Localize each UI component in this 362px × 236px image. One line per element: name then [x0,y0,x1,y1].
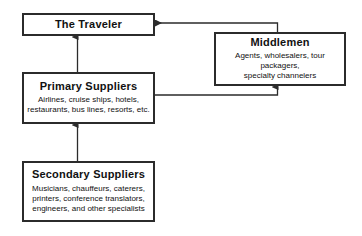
diagram-canvas: The Traveler Middlemen Agents, wholesale… [0,0,362,236]
node-secondary-suppliers[interactable]: Secondary Suppliers Musicians, chauffeur… [22,161,155,222]
node-middlemen[interactable]: Middlemen Agents, wholesalers, tour pack… [214,32,346,86]
node-secondary-suppliers-description: Musicians, chauffeurs, caterers, printer… [32,184,145,214]
node-middlemen-title: Middlemen [250,36,309,49]
node-primary-suppliers-description: Airlines, cruise ships, hotels, restaura… [27,95,149,115]
node-primary-suppliers-title: Primary Suppliers [40,80,138,93]
connector-middlemen-to-traveler [156,23,278,32]
node-secondary-suppliers-title: Secondary Suppliers [32,168,145,181]
node-the-traveler[interactable]: The Traveler [22,13,155,36]
node-the-traveler-title: The Traveler [55,18,122,31]
connector-primary-to-middlemen [155,87,278,95]
node-middlemen-description: Agents, wholesalers, tour packagers, spe… [219,51,341,81]
node-primary-suppliers[interactable]: Primary Suppliers Airlines, cruise ships… [22,72,155,124]
